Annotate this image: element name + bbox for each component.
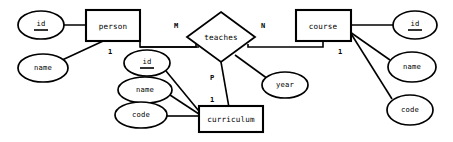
attribute-course-id[interactable]: id — [393, 11, 437, 39]
relationship-teaches-label: teaches — [204, 33, 237, 42]
attribute-curriculum-id-label: id — [142, 57, 151, 66]
edge-curriculum-name — [170, 95, 202, 116]
attribute-curriculum-name-label: name — [136, 85, 154, 94]
attribute-course-code[interactable]: code — [387, 95, 433, 125]
edge-course-code — [350, 32, 392, 99]
attribute-person-name[interactable]: name — [18, 54, 68, 82]
attribute-course-name[interactable]: name — [388, 52, 436, 82]
er-diagram-canvas: person id name teaches year course — [0, 0, 453, 142]
attribute-person-id[interactable]: id — [18, 11, 64, 39]
attribute-teaches-year[interactable]: year — [262, 72, 308, 98]
participation-course-one-label: 1 — [338, 48, 342, 56]
attribute-course-code-label: code — [401, 105, 419, 114]
edge-course-name — [350, 32, 390, 60]
attribute-course-name-label: name — [403, 62, 421, 71]
entity-person[interactable]: person — [86, 10, 140, 41]
entity-person-label: person — [99, 22, 128, 31]
attribute-teaches-year-label: year — [276, 80, 295, 89]
attribute-person-id-label: id — [36, 19, 45, 28]
cardinality-n-label: N — [261, 22, 265, 30]
entity-curriculum[interactable]: curriculum — [199, 106, 263, 132]
edge-person-teaches — [140, 41, 196, 47]
entity-course[interactable]: course — [296, 10, 351, 41]
relationship-teaches[interactable]: teaches — [187, 12, 255, 62]
cardinality-p-label: P — [210, 74, 214, 82]
er-diagram-svg: person id name teaches year course — [0, 0, 453, 142]
attribute-curriculum-id[interactable]: id — [124, 50, 170, 76]
edge-teaches-year — [235, 55, 268, 79]
attribute-curriculum-code[interactable]: code — [115, 102, 167, 128]
participation-person-one-label: 1 — [108, 48, 112, 56]
cardinality-m-label: M — [174, 22, 178, 30]
attribute-person-name-label: name — [34, 63, 52, 72]
participation-curriculum-one-label: 1 — [210, 96, 214, 104]
entity-course-label: course — [309, 22, 338, 31]
attribute-curriculum-code-label: code — [132, 110, 150, 119]
entity-curriculum-label: curriculum — [207, 115, 255, 124]
attribute-course-id-label: id — [410, 19, 419, 28]
attribute-curriculum-name[interactable]: name — [118, 77, 172, 103]
